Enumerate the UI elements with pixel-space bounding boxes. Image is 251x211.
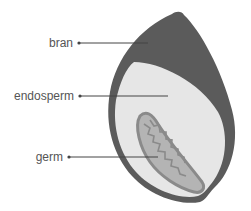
germ-leader-dot [67,155,70,158]
endosperm-leader-dot [78,94,81,97]
bran-leader-dot [77,41,80,44]
endosperm-label: endosperm [14,89,74,103]
grain-kernel-diagram: bran endosperm germ [0,0,251,211]
germ-label: germ [36,150,63,164]
kernel-illustration [0,0,251,211]
bran-label: bran [49,36,73,50]
